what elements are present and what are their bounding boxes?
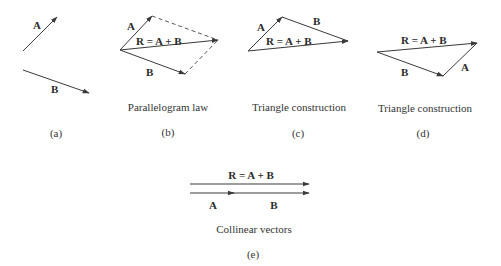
vector-a-label: A — [257, 21, 265, 33]
caption-collinear-vectors: Collinear vectors — [216, 223, 291, 235]
panel-d: B A R = A + B Triangle construction (d) — [377, 34, 477, 140]
caption-triangle-construction-c: Triangle construction — [252, 101, 346, 113]
sublabel-d: (d) — [417, 127, 430, 140]
sublabel-e: (e) — [247, 248, 260, 261]
sublabel-b: (b) — [162, 126, 175, 139]
sublabel-c: (c) — [292, 127, 305, 140]
vector-b-label: B — [51, 83, 59, 95]
panel-a: A B (a) — [23, 17, 89, 140]
panel-b: A B R = A + B Parallelogram law (b) — [120, 16, 218, 139]
caption-triangle-construction-d: Triangle construction — [378, 102, 472, 114]
vector-a-label: A — [461, 61, 469, 73]
vector-a-label: A — [127, 20, 135, 32]
sublabel-a: (a) — [50, 127, 63, 140]
vector-r-label: R = A + B — [228, 169, 274, 181]
vector-a-arrow — [443, 43, 477, 76]
vector-b-arrow — [377, 52, 443, 76]
dashed-line-b-to-r — [185, 40, 218, 74]
vector-r-label: R = A + B — [401, 34, 447, 46]
panel-c: A B R = A + B Triangle construction (c) — [248, 15, 348, 140]
vector-b-label: B — [313, 15, 321, 27]
caption-parallelogram-law: Parallelogram law — [128, 101, 208, 113]
vector-r-label: R = A + B — [266, 35, 312, 47]
vector-addition-figure: A B (a) A B R = A + B Parallelogram law … — [0, 0, 501, 266]
vector-b-label: B — [401, 66, 409, 78]
vector-r-label: R = A + B — [136, 35, 182, 47]
vector-b-label: B — [270, 199, 278, 211]
panel-e: R = A + B A B Collinear vectors (e) — [190, 169, 309, 261]
vector-a-label: A — [33, 19, 41, 31]
vector-b-label: B — [146, 66, 154, 78]
vector-a-label: A — [209, 199, 217, 211]
